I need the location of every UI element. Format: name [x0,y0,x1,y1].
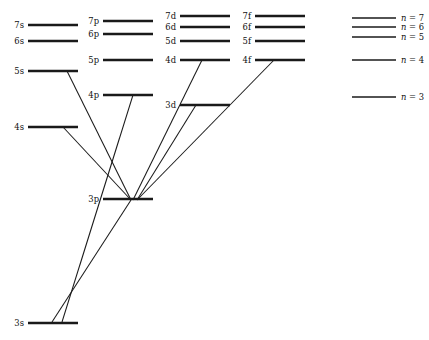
level-label-6f: 6f [243,22,252,32]
level-label-7f: 7f [243,11,252,21]
legend-label-n4: n = 4 [401,55,424,65]
transition-line-3d-to-3p [137,105,196,200]
level-label-4f: 4f [243,55,252,65]
level-label-5f: 5f [243,36,252,46]
level-label-6d: 6d [165,22,176,32]
level-label-3d: 3d [165,100,176,110]
level-label-7p: 7p [88,16,99,26]
transition-line-3p-to-3s [52,200,131,322]
diagram-canvas: 7s6s5s4s3s7p6p5p4p3p7d6d5d4d3d7f6f5f4f n… [0,0,429,340]
level-label-5s: 5s [14,66,24,76]
transition-line-4d-to-3p [133,60,202,200]
transition-line-4p-to-3s [62,95,133,322]
level-labels-group: 7s6s5s4s3s7p6p5p4p3p7d6d5d4d3d7f6f5f4f [14,11,252,328]
legend-label-n5: n = 5 [401,32,424,42]
transition-line-4s-to-3p [63,127,131,200]
energy-level-diagram: 7s6s5s4s3s7p6p5p4p3p7d6d5d4d3d7f6f5f4f n… [0,0,429,340]
level-label-6p: 6p [88,29,99,39]
level-label-3s: 3s [14,318,24,328]
level-label-7d: 7d [165,11,176,21]
level-label-3p: 3p [88,194,99,204]
level-label-4d: 4d [165,55,176,65]
legend-label-n3: n = 3 [401,92,424,102]
transitions-group [52,60,274,322]
level-label-4s: 4s [14,122,24,132]
level-label-4p: 4p [88,90,99,100]
legend-group: n = 7n = 6n = 5n = 4n = 3 [352,13,424,102]
transition-line-5s-to-3p [67,71,131,200]
level-label-5d: 5d [165,36,176,46]
level-label-5p: 5p [88,55,99,65]
level-label-7s: 7s [14,20,24,30]
transition-line-4f-to-3p [137,60,274,200]
legend-label-n6: n = 6 [401,22,424,32]
level-label-6s: 6s [14,36,24,46]
